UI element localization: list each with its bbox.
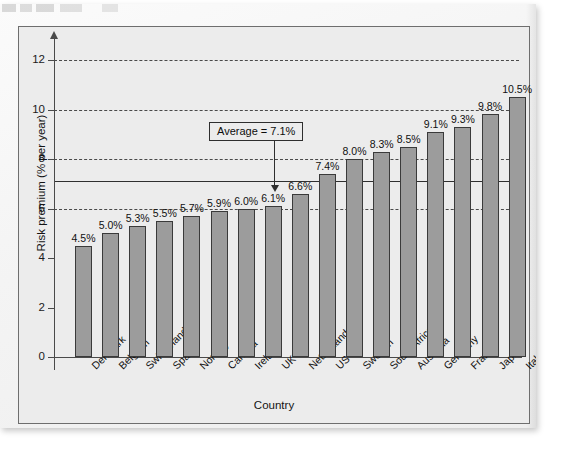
y-axis-tick [48, 110, 54, 111]
bar [319, 174, 336, 357]
bar-value-label: 10.5% [494, 83, 536, 95]
x-axis-title: Country [19, 399, 529, 411]
bar [156, 221, 173, 357]
bar-value-label: 7.4% [304, 160, 350, 172]
y-axis [54, 38, 55, 370]
bar [427, 132, 444, 357]
y-axis-tick [48, 209, 54, 210]
scan-header-artifact [2, 4, 120, 12]
average-annotation-leader-line [274, 141, 275, 189]
bar [346, 159, 363, 357]
bar [373, 152, 390, 357]
bar-value-label: 4.5% [61, 232, 107, 244]
bar-value-label: 9.8% [467, 100, 513, 112]
average-annotation-arrow-icon [271, 185, 279, 192]
y-axis-tick [48, 60, 54, 61]
bar-value-label: 6.1% [250, 192, 296, 204]
chart-frame: 024681012 4.5%Denmark5.0%Belgium5.3%Swit… [18, 26, 530, 424]
bar [211, 211, 228, 357]
scanned-page: 024681012 4.5%Denmark5.0%Belgium5.3%Swit… [0, 4, 536, 428]
bar [292, 194, 309, 357]
average-annotation-box: Average = 7.1% [209, 122, 303, 141]
bar [400, 147, 417, 357]
bar [102, 233, 119, 357]
y-axis-tick [48, 357, 54, 358]
y-axis-tick-label: 0 [11, 350, 45, 362]
bar [454, 127, 471, 357]
bar-value-label: 9.3% [440, 113, 486, 125]
gridline [54, 159, 519, 160]
bar-value-label: 6.6% [277, 180, 323, 192]
bar [265, 206, 282, 357]
y-axis-arrow-icon [50, 31, 58, 39]
plot-area: 024681012 4.5%Denmark5.0%Belgium5.3%Swit… [19, 27, 529, 423]
bar [129, 226, 146, 357]
bar [509, 97, 526, 357]
gridline [54, 209, 519, 210]
bar [183, 216, 200, 357]
bar [75, 246, 92, 357]
bar [482, 114, 499, 357]
bar-value-label: 8.5% [386, 133, 432, 145]
bar [238, 209, 255, 358]
gridline [54, 60, 519, 61]
y-axis-tick [48, 258, 54, 259]
y-axis-title: Risk premium (% per year) [35, 43, 47, 323]
y-axis-tick [48, 159, 54, 160]
gridline [54, 110, 519, 111]
y-axis-tick [48, 308, 54, 309]
